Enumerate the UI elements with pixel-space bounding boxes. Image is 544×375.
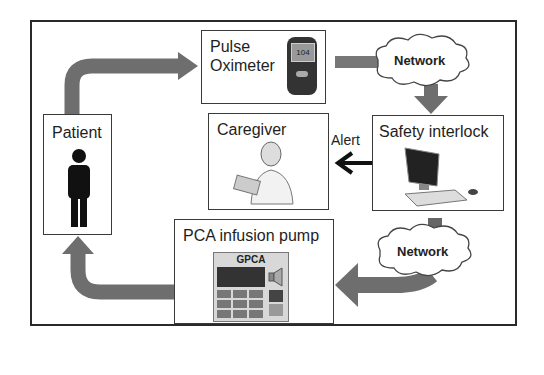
person-icon [64,149,94,229]
pump-device-label: GPCA [214,254,288,265]
speaker-icon [268,267,284,287]
safety-interlock-node: Safety interlock [372,115,504,211]
arrow-head-pump [335,263,358,307]
patient-node: Patient [43,114,112,235]
arrow-head-oximeter [178,52,198,80]
network-top-label: Network [394,53,445,68]
pulse-oximeter-node: Pulse Oximeter 104 [201,30,326,104]
arrow-network-to-pump [355,275,432,285]
arrow-head-interlock [414,96,448,114]
pca-pump-label: PCA infusion pump [183,226,319,245]
pump-keypad [217,290,263,318]
caregiver-label: Caregiver [217,120,286,139]
network-bottom-label: Network [397,244,448,259]
arrow-patient-to-oximeter [72,66,180,115]
oximeter-label-line2: Oximeter [210,56,275,75]
caregiver-node: Caregiver [208,113,329,210]
oximeter-label-line1: Pulse [210,37,250,56]
patient-label: Patient [52,123,102,142]
nurse-icon [231,140,301,206]
pump-screen [217,267,265,287]
oximeter-display: 104 [291,43,315,62]
arrow-head-patient [62,236,94,254]
alert-label: Alert [331,131,360,150]
pca-pump-node: PCA infusion pump GPCA [174,219,334,324]
computer-icon [395,144,485,208]
safety-interlock-label: Safety interlock [379,122,488,141]
infusion-pump-icon: GPCA [213,252,289,322]
oximeter-device-icon: 104 [287,37,317,95]
arrow-pump-to-patient [78,252,175,292]
